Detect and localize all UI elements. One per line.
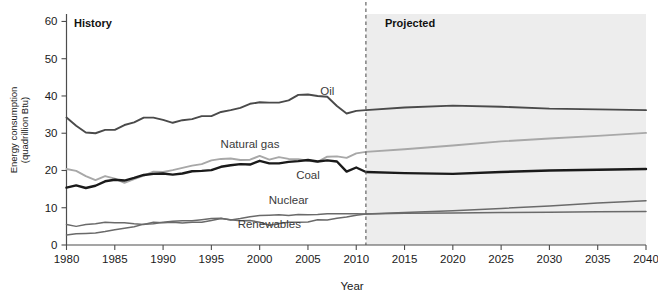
- y-tick-label: 0: [51, 239, 57, 251]
- x-tick-label: 1995: [199, 253, 225, 265]
- x-tick-label: 1985: [102, 253, 128, 265]
- chart-svg: 0102030405060 19801985199019952000200520…: [0, 0, 658, 297]
- series-label-natural-gas: Natural gas: [221, 138, 280, 150]
- y-axis-title-line2: (quadrillion Btu): [19, 97, 30, 164]
- y-tick-label: 20: [45, 164, 58, 176]
- energy-consumption-chart: 0102030405060 19801985199019952000200520…: [0, 0, 658, 297]
- x-tick-label: 2035: [585, 253, 611, 265]
- x-tick-label: 2020: [440, 253, 466, 265]
- x-tick-label: 2000: [247, 253, 273, 265]
- y-axis-title-group: Energy consumption (quadrillion Btu): [8, 87, 30, 174]
- y-tick-label: 10: [45, 202, 58, 214]
- x-tick-label: 2015: [392, 253, 418, 265]
- series-label-nuclear: Nuclear: [269, 194, 309, 206]
- series-label-renewables: Renewables: [238, 218, 302, 230]
- x-tick-label: 2030: [537, 253, 563, 265]
- series-label-oil: Oil: [320, 85, 334, 97]
- series-label-coal: Coal: [296, 169, 320, 181]
- x-tick-label: 1990: [150, 253, 176, 265]
- projected-region-band: [366, 14, 646, 245]
- y-tick-label: 30: [45, 127, 58, 139]
- x-tick-label: 1980: [54, 253, 80, 265]
- y-tick-label: 60: [45, 15, 58, 27]
- y-axis-title-line1: Energy consumption: [8, 87, 19, 174]
- y-tick-label: 50: [45, 53, 58, 65]
- projected-region-label: Projected: [385, 17, 435, 29]
- x-tick-label: 2005: [295, 253, 321, 265]
- x-axis-title: Year: [340, 280, 363, 292]
- history-region-label: History: [74, 17, 113, 29]
- y-tick-label: 40: [45, 90, 58, 102]
- x-tick-label: 2040: [633, 253, 658, 265]
- x-tick-label: 2010: [343, 253, 369, 265]
- x-tick-label: 2025: [488, 253, 514, 265]
